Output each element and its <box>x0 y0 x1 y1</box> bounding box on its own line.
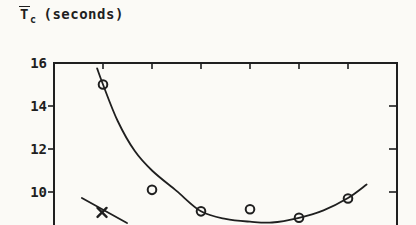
data-point-circle <box>246 205 255 214</box>
y-tick-label: 16 <box>30 55 47 71</box>
chart-plot: 16141210 <box>0 0 416 225</box>
scanned-figure-page: Tc(seconds) 16141210 <box>0 0 416 225</box>
data-point-circle <box>148 186 157 195</box>
fitted-curve-line <box>97 68 367 222</box>
y-tick-label: 12 <box>30 141 47 157</box>
y-tick-label: 14 <box>30 98 47 114</box>
y-tick-label: 10 <box>30 184 47 200</box>
